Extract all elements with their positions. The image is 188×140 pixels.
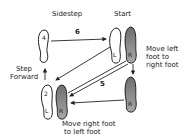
label-step-forward-2: Forward [10,73,38,81]
svg-text:R: R [128,51,132,58]
label-move-right-2: to left foot [64,128,101,136]
label-move-left-3: right foot [146,61,178,69]
step-number-5: 5 [100,80,105,88]
label-move-left-1: Move left [146,45,178,53]
label-move-right-1: Move right foot [62,120,115,128]
svg-text:R: R [128,100,132,107]
svg-text:R: R [59,107,63,114]
label-start: Start [114,10,131,18]
label-step-forward-1: Step [16,65,32,73]
svg-text:2: 2 [44,90,48,97]
dance-step-diagram: 4 L R R 2 L R Sidestep 6 Start Move left… [0,0,188,140]
step-number-6: 6 [75,28,80,36]
foot-number-4: 4 [42,34,46,41]
label-move-left-2: foot to [146,53,169,61]
label-sidestep: Sidestep [52,10,82,18]
